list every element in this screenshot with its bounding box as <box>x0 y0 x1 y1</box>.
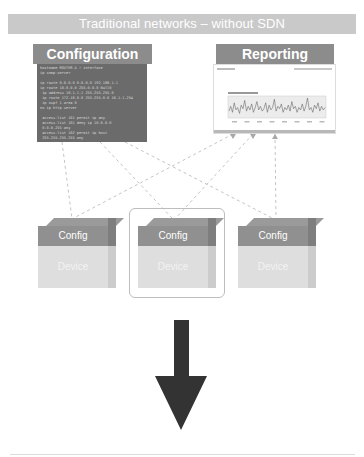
bottom-divider <box>10 454 355 455</box>
cube-side <box>308 246 316 288</box>
device-label: Device <box>138 246 208 288</box>
report-chart <box>214 65 335 133</box>
configuration-header: Configuration <box>33 44 152 64</box>
report-status-bar <box>214 130 335 133</box>
report-x-tick <box>295 121 300 123</box>
report-x-tick <box>245 121 250 123</box>
report-x-tick <box>307 121 312 123</box>
report-legend <box>228 92 258 94</box>
device-1: Config Device <box>38 218 116 292</box>
arrowhead-report-2 <box>250 134 256 139</box>
cube-side <box>308 218 316 246</box>
report-x-tick <box>257 121 262 123</box>
config-label: Config <box>238 226 308 246</box>
device-label: Device <box>238 246 308 288</box>
cube-side <box>208 218 216 246</box>
report-x-tick <box>232 121 237 123</box>
arrowhead-report-3 <box>272 134 278 139</box>
cube-side <box>108 246 116 288</box>
connector-report-device3 <box>275 134 276 219</box>
reporting-header: Reporting <box>216 44 334 64</box>
terminal-line: 255.255.255.255 any <box>40 136 144 141</box>
report-x-tick <box>270 121 275 123</box>
device-3: Config Device <box>238 218 316 292</box>
connector-report-device1 <box>72 134 233 219</box>
down-arrow-icon <box>150 316 212 434</box>
report-toolbar-right <box>294 68 332 70</box>
connector-config-device1 <box>62 142 72 219</box>
reporting-panel <box>213 64 336 134</box>
cube-side <box>208 246 216 288</box>
report-plot-area <box>228 96 326 118</box>
arrowhead-report-1 <box>230 134 236 139</box>
device-label: Device <box>38 246 108 288</box>
config-label: Config <box>138 226 208 246</box>
connector-report-device2 <box>175 134 253 219</box>
report-x-tick <box>282 121 287 123</box>
device-2: Config Device <box>138 218 216 292</box>
cube-side <box>108 218 116 246</box>
config-label: Config <box>38 226 108 246</box>
report-x-tick <box>320 121 325 123</box>
report-toolbar-left <box>217 68 235 70</box>
configuration-terminal: hostname ROUTER-A ! interfaceip snmp-ser… <box>37 64 147 142</box>
